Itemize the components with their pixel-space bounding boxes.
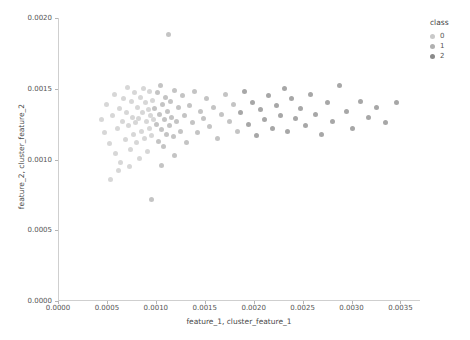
scatter-chart: 0.00000.00050.00100.00150.00200.00250.00…: [0, 0, 470, 340]
data-point: [115, 126, 120, 131]
x-tick-label: 0.0020: [241, 304, 266, 312]
legend-item[interactable]: 2: [430, 51, 449, 61]
data-point: [138, 95, 143, 100]
y-tick-label: 0.0015: [28, 85, 53, 93]
data-points-layer: [59, 18, 420, 300]
data-point: [184, 140, 189, 145]
x-tick-label: 0.0035: [388, 304, 413, 312]
data-point: [102, 130, 107, 135]
data-point: [278, 113, 283, 118]
legend-swatch-icon: [430, 54, 435, 59]
data-point: [120, 119, 125, 124]
data-point: [104, 102, 109, 107]
data-point: [195, 130, 200, 135]
data-point: [139, 129, 144, 134]
data-point: [149, 197, 154, 202]
data-point: [168, 99, 173, 104]
data-point: [238, 110, 243, 115]
data-point: [266, 93, 271, 98]
data-point: [211, 105, 216, 110]
legend-item[interactable]: 0: [430, 31, 449, 41]
legend-swatch-icon: [430, 34, 435, 39]
data-point: [99, 117, 104, 122]
x-tick-label: 0.0010: [144, 304, 169, 312]
data-point: [167, 123, 172, 128]
data-point: [313, 112, 318, 117]
x-tick-label: 0.0015: [193, 304, 218, 312]
data-point: [274, 103, 279, 108]
legend-label: 1: [440, 41, 444, 51]
data-point: [142, 136, 147, 141]
data-point: [176, 105, 181, 110]
y-tick-label: 0.0000: [28, 297, 53, 305]
data-point: [135, 105, 140, 110]
data-point: [147, 89, 152, 94]
data-point: [330, 119, 335, 124]
data-point: [270, 126, 275, 131]
data-point: [118, 160, 123, 165]
data-point: [121, 96, 126, 101]
data-point: [134, 140, 139, 145]
data-point: [150, 98, 155, 103]
data-point: [319, 132, 324, 137]
data-point: [127, 164, 132, 169]
data-point: [141, 86, 146, 91]
data-point: [383, 120, 388, 125]
data-point: [158, 83, 163, 88]
data-point: [116, 168, 121, 173]
data-point: [117, 106, 122, 111]
data-point: [137, 156, 142, 161]
data-point: [156, 139, 161, 144]
data-point: [113, 151, 118, 156]
data-point: [108, 177, 113, 182]
x-tick-mark: [303, 301, 304, 304]
data-point: [227, 119, 232, 124]
y-tick-mark: [55, 160, 58, 161]
legend-label: 0: [440, 31, 444, 41]
data-point: [254, 133, 259, 138]
data-point: [136, 116, 141, 121]
data-point: [112, 92, 117, 97]
data-point: [133, 120, 138, 125]
data-point: [144, 119, 149, 124]
legend-swatch-icon: [430, 44, 435, 49]
data-point: [160, 102, 165, 107]
data-point: [149, 133, 154, 138]
data-point: [204, 96, 209, 101]
data-point: [125, 85, 130, 90]
data-point: [258, 107, 263, 112]
data-point: [159, 163, 164, 168]
x-tick-label: 0.0000: [46, 304, 71, 312]
data-point: [155, 90, 160, 95]
data-point: [152, 106, 157, 111]
data-point: [107, 141, 112, 146]
y-tick-mark: [55, 89, 58, 90]
data-point: [246, 122, 251, 127]
x-tick-mark: [400, 301, 401, 304]
x-tick-mark: [205, 301, 206, 304]
data-point: [358, 99, 363, 104]
data-point: [131, 132, 136, 137]
data-point: [169, 115, 174, 120]
data-point: [147, 126, 152, 131]
data-point: [192, 89, 197, 94]
y-tick-label: 0.0020: [28, 14, 53, 22]
data-point: [344, 109, 349, 114]
x-tick-mark: [254, 301, 255, 304]
y-tick-label: 0.0005: [28, 226, 53, 234]
data-point: [172, 88, 177, 93]
data-point: [289, 96, 294, 101]
legend-label: 2: [440, 51, 444, 61]
x-tick-mark: [58, 301, 59, 304]
x-tick-mark: [107, 301, 108, 304]
legend-item[interactable]: 1: [430, 41, 449, 51]
x-tick-label: 0.0005: [95, 304, 120, 312]
legend: class 012: [430, 18, 449, 61]
data-point: [298, 106, 303, 111]
data-point: [303, 123, 308, 128]
legend-title: class: [430, 18, 449, 27]
data-point: [130, 115, 135, 120]
data-point: [110, 113, 115, 118]
x-tick-mark: [156, 301, 157, 304]
data-point: [285, 129, 290, 134]
